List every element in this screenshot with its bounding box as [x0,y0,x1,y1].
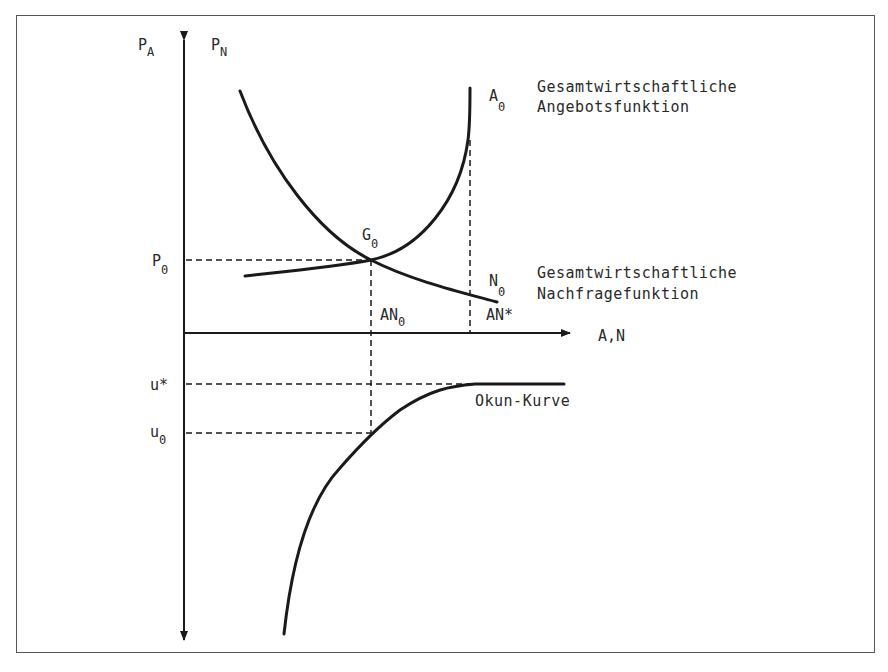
an0-label: AN0 [380,306,405,329]
supply-desc-line1: Gesamtwirtschaftliche [537,78,737,96]
x-axis-label: A,N [598,327,625,345]
supply-curve [245,88,470,276]
an-star-label: AN* [486,306,513,324]
demand-curve [240,91,497,302]
y-axis-label-pn: PN [211,36,227,59]
u-star-label: u* [150,376,168,394]
okun-curve-label: Okun-Kurve [475,392,570,410]
u0-label: u0 [150,423,166,447]
okun-curve [284,384,564,634]
demand-curve-name: N0 [489,272,505,299]
p0-label: P0 [152,252,168,277]
equilibrium-label: G0 [362,226,378,251]
supply-curve-name: A0 [489,87,505,114]
economic-diagram: PA PN A,N P0 u* u0 G0 AN0 AN* A0 Gesamtw… [0,0,888,672]
demand-desc-line2: Nachfragefunktion [537,285,699,303]
reference-lines [186,140,470,433]
demand-desc-line1: Gesamtwirtschaftliche [537,264,737,282]
y-axis-label-pa: PA [138,36,155,59]
supply-desc-line2: Angebotsfunktion [537,98,690,116]
